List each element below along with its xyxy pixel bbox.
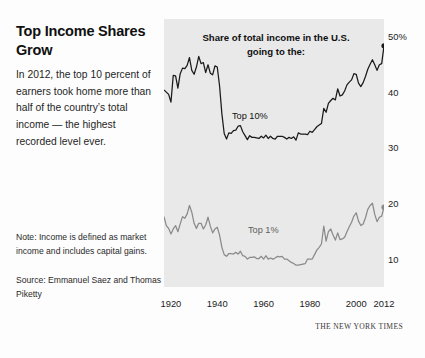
article-text-column: Top Income Shares Grow In 2012, the top … (16, 22, 156, 150)
chart-title: Share of total income in the U.S. going … (200, 31, 352, 59)
x-axis-tick-label: 1980 (299, 298, 320, 309)
y-axis-tick-label: 40 (388, 86, 398, 97)
x-axis-tick-label: 1920 (160, 298, 181, 309)
article-deck: In 2012, the top 10 percent of earners t… (16, 67, 156, 150)
series-endpoint-marker (381, 205, 384, 210)
x-axis-tick-label: 1960 (253, 298, 274, 309)
note-text: Note: Income is defined as market income… (16, 230, 166, 259)
x-axis-tick-label: 1940 (207, 298, 228, 309)
y-axis-tick-label: 30 (388, 142, 398, 153)
infographic-figure: Top Income Shares Grow In 2012, the top … (0, 0, 425, 358)
series-label-top1: Top 1% (248, 225, 279, 235)
x-axis: 192019401960198020002012 (164, 298, 424, 312)
page-title: Top Income Shares Grow (16, 22, 156, 59)
x-axis-tick-label: 2000 (346, 298, 367, 309)
series-line (164, 46, 384, 140)
y-axis-tick-label: 50% (388, 30, 407, 41)
credit-line: THE NEW YORK TIMES (315, 322, 403, 331)
y-axis: 1020304050% (388, 19, 424, 287)
x-axis-tick-label: 2012 (374, 298, 395, 309)
y-axis-tick-label: 10 (388, 254, 398, 265)
footnote-column: Note: Income is defined as market income… (16, 230, 166, 302)
source-text: Source: Emmanuel Saez and Thomas Piketty (16, 273, 166, 302)
series-endpoint-marker (381, 43, 384, 48)
chart-lines (164, 19, 384, 287)
y-axis-tick-label: 20 (388, 198, 398, 209)
chart-plot-area: Share of total income in the U.S. going … (164, 19, 384, 287)
series-label-top10: Top 10% (232, 111, 268, 121)
